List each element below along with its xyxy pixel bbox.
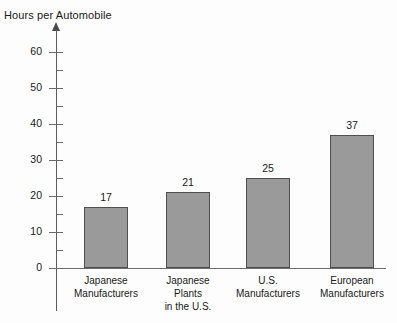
- y-tick-label: 40: [2, 118, 42, 129]
- y-tick-major: [49, 88, 63, 89]
- y-tick-minor: [56, 142, 63, 143]
- y-tick-major: [49, 196, 63, 197]
- y-tick-label: 0: [2, 262, 42, 273]
- bar: [330, 135, 374, 268]
- y-tick-minor: [56, 70, 63, 71]
- category-label-line: Manufacturers: [297, 287, 397, 300]
- y-tick-label: 20: [2, 190, 42, 201]
- bar: [84, 207, 128, 268]
- y-tick-label: 60: [2, 46, 42, 57]
- y-tick-major: [49, 52, 63, 53]
- y-tick-minor: [56, 250, 63, 251]
- category-label-line: in the U.S.: [133, 300, 243, 313]
- y-tick-minor: [56, 178, 63, 179]
- bar-chart: Hours per Automobile 0102030405060 17212…: [0, 0, 397, 323]
- y-tick-label: 50: [2, 82, 42, 93]
- y-axis-title: Hours per Automobile: [4, 9, 112, 22]
- x-axis-line: [50, 268, 386, 269]
- bar: [166, 192, 210, 268]
- category-label: EuropeanManufacturers: [297, 274, 397, 300]
- y-tick-major: [49, 232, 63, 233]
- category-label-line: European: [297, 274, 397, 287]
- y-tick-major: [49, 160, 63, 161]
- bar-value-label: 37: [322, 119, 382, 131]
- bar-value-label: 21: [158, 176, 218, 188]
- y-tick-minor: [56, 106, 63, 107]
- y-tick-major: [49, 124, 63, 125]
- y-tick-label: 10: [2, 226, 42, 237]
- y-tick-major: [49, 268, 63, 269]
- y-tick-label: 30: [2, 154, 42, 165]
- y-tick-minor: [56, 214, 63, 215]
- bar: [246, 178, 290, 268]
- bar-value-label: 25: [238, 162, 298, 174]
- bar-value-label: 17: [76, 191, 136, 203]
